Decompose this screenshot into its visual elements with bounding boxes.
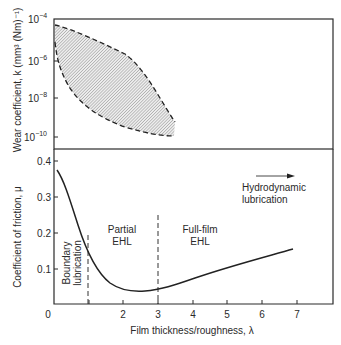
wear-coefficient-band [55, 25, 175, 136]
svg-text:lubrication: lubrication [72, 240, 83, 286]
partial-ehl-label: Partial EHL [108, 224, 136, 247]
svg-text:0.3: 0.3 [37, 192, 51, 203]
svg-text:4: 4 [190, 309, 196, 320]
svg-text:0.4: 0.4 [37, 156, 51, 167]
xaxis-label: Film thickness/roughness, λ [130, 325, 253, 336]
svg-text:Boundary: Boundary [61, 242, 72, 285]
svg-text:10−4: 10−4 [28, 12, 47, 25]
svg-text:0.2: 0.2 [37, 228, 51, 239]
friction-ytick-labels: 0.4 0.3 0.2 0.1 [37, 156, 51, 275]
full-film-ehl-label: Full-film EHL [183, 224, 218, 247]
svg-text:Hydrodynamic: Hydrodynamic [242, 182, 306, 193]
svg-text:6: 6 [259, 309, 265, 320]
svg-text:5: 5 [224, 309, 230, 320]
hydrodynamic-lubrication-label: Hydrodynamic lubrication [242, 174, 306, 206]
arrow-head-icon [287, 174, 295, 179]
svg-text:10−8: 10−8 [28, 91, 47, 104]
svg-text:10−6: 10−6 [28, 54, 47, 67]
svg-text:7: 7 [294, 309, 300, 320]
wear-ytick-labels: 10−4 10−6 10−8 10−10 [24, 12, 47, 143]
svg-text:EHL: EHL [190, 236, 210, 247]
stribeck-wear-chart: 10−4 10−6 10−8 10−10 Wear coefficient, k… [0, 0, 341, 345]
svg-text:Partial: Partial [108, 224, 136, 235]
svg-text:lubrication: lubrication [242, 194, 288, 205]
svg-text:2: 2 [120, 309, 126, 320]
wear-yaxis-label: Wear coefficient, k (mm³ (Nm)⁻¹) [12, 8, 23, 153]
wear-panel: 10−4 10−6 10−8 10−10 Wear coefficient, k… [12, 8, 333, 153]
svg-text:3: 3 [155, 309, 161, 320]
xtick-labels: 0 2 3 4 5 6 7 [45, 309, 300, 320]
boundary-lubrication-label: Boundary lubrication [61, 240, 83, 286]
svg-text:Full-film: Full-film [183, 224, 218, 235]
svg-text:0: 0 [45, 309, 51, 320]
friction-panel: 0.4 0.3 0.2 0.1 Coefficient of friction,… [12, 149, 333, 336]
svg-text:EHL: EHL [112, 236, 132, 247]
svg-text:10−10: 10−10 [24, 130, 47, 143]
svg-text:0.1: 0.1 [37, 264, 51, 275]
friction-yaxis-label: Coefficient of friction, μ [12, 186, 23, 288]
